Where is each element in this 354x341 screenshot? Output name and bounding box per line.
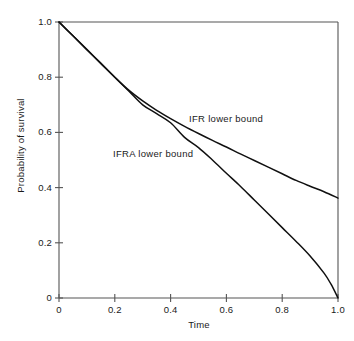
x-tick-label: 1.0 bbox=[323, 304, 353, 315]
y-tick-label: 0.8 bbox=[8, 71, 52, 82]
x-tick-label: 0 bbox=[44, 304, 74, 315]
y-axis-title: Probability of survival bbox=[15, 86, 26, 206]
x-tick-label: 0.8 bbox=[267, 304, 297, 315]
x-tick-label: 0.6 bbox=[211, 304, 241, 315]
x-tick-label: 0.4 bbox=[156, 304, 186, 315]
y-tick-label: 0.2 bbox=[8, 237, 52, 248]
x-tick-label: 0.2 bbox=[100, 304, 130, 315]
x-axis-title: Time bbox=[159, 319, 239, 330]
annotation-ifra-lower-bound: IFRA lower bound bbox=[113, 148, 193, 159]
y-tick-label: 0 bbox=[8, 292, 52, 303]
curve-ifra-lower-bound bbox=[59, 22, 338, 298]
annotation-ifr-lower-bound: IFR lower bound bbox=[189, 113, 263, 124]
curve-ifr-lower-bound bbox=[59, 22, 338, 198]
survival-probability-plot bbox=[0, 0, 354, 341]
chart-figure: 00.20.40.60.81.0 00.20.40.60.81.0 Probab… bbox=[0, 0, 354, 341]
y-tick-label: 1.0 bbox=[8, 16, 52, 27]
